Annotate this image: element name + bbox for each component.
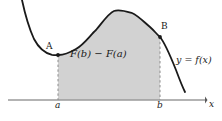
point-label-a: A (46, 42, 53, 51)
point-marker-a (56, 53, 60, 57)
point-marker-b (158, 35, 162, 39)
x-axis-tick-label-b: b (157, 101, 163, 110)
shaded-area-label: F(b) − F(a) (70, 49, 127, 59)
x-axis-arrowhead (205, 97, 208, 104)
x-axis-label: x (209, 100, 214, 109)
function-curve-label: y = f(x) (176, 55, 212, 65)
point-label-b: B (161, 22, 168, 31)
figure-container: A B F(b) − F(a) y = f(x) a b x (0, 0, 222, 121)
x-axis-tick-label-a: a (55, 101, 60, 110)
